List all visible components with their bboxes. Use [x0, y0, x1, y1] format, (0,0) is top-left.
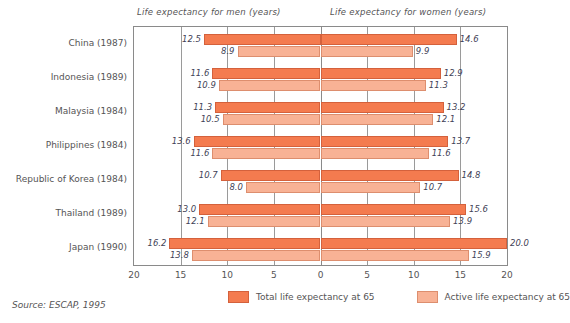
legend-label-active: Active life expectancy at 65	[445, 292, 570, 302]
category-label: Republic of Korea (1984)	[2, 174, 127, 184]
value-label-women-total: 15.6	[469, 204, 488, 215]
value-label-men-active: 11.6	[190, 148, 209, 159]
x-tick-label: 15	[455, 270, 466, 280]
value-label-men-total: 13.0	[177, 204, 196, 215]
bar-women-total	[321, 102, 444, 113]
bar-men-total	[212, 68, 320, 79]
x-tick-label: 20	[128, 270, 139, 280]
legend-swatch-active-icon	[417, 291, 438, 303]
value-label-men-active: 13.8	[170, 250, 189, 261]
value-label-men-total: 11.6	[190, 68, 209, 79]
bar-row-total: 11.612.9	[134, 68, 507, 79]
value-label-women-total: 20.0	[510, 238, 529, 249]
bar-women-total	[321, 34, 457, 45]
x-tick-label: 20	[501, 270, 512, 280]
value-label-women-total: 14.8	[462, 170, 481, 181]
value-label-women-total: 13.2	[447, 102, 466, 113]
x-tick-label: 10	[408, 270, 419, 280]
bar-row-total: 10.714.8	[134, 170, 507, 181]
x-tick-label: 10	[222, 270, 233, 280]
bar-women-active	[321, 46, 413, 57]
bar-men-active	[223, 114, 321, 125]
value-label-men-active: 8.0	[229, 182, 243, 193]
value-label-women-total: 12.9	[444, 68, 463, 79]
value-label-women-active: 11.3	[429, 80, 448, 91]
x-axis-ticks: 201510505101520	[133, 267, 508, 283]
right-axis-title: Life expectancy for women (years)	[330, 7, 486, 17]
bar-men-active	[192, 250, 321, 261]
legend-item-total: Total life expectancy at 65	[228, 291, 375, 303]
value-label-women-active: 15.9	[472, 250, 491, 261]
bar-row-active: 11.611.6	[134, 148, 507, 159]
bar-women-total	[321, 204, 466, 215]
x-tick-label: 0	[318, 270, 324, 280]
source-note: Source: ESCAP, 1995	[12, 300, 106, 310]
legend-item-active: Active life expectancy at 65	[417, 291, 570, 303]
value-label-women-active: 13.9	[453, 216, 472, 227]
bar-women-active	[321, 148, 429, 159]
category-label: Indonesia (1989)	[2, 72, 127, 82]
bar-men-active	[212, 148, 320, 159]
bar-men-total	[169, 238, 320, 249]
bar-women-total	[321, 170, 459, 181]
bar-women-active	[321, 80, 426, 91]
bar-row-total: 16.220.0	[134, 238, 507, 249]
category-label: China (1987)	[2, 38, 127, 48]
bar-women-active	[321, 216, 451, 227]
left-axis-title: Life expectancy for men (years)	[137, 7, 281, 17]
value-label-men-active: 10.9	[197, 80, 216, 91]
bar-men-active	[246, 182, 321, 193]
value-label-women-total: 13.7	[451, 136, 470, 147]
bar-men-active	[238, 46, 321, 57]
bar-men-total	[221, 170, 321, 181]
x-tick-label: 15	[175, 270, 186, 280]
bar-row-total: 12.514.6	[134, 34, 507, 45]
bar-women-active	[321, 250, 469, 261]
legend-label-total: Total life expectancy at 65	[256, 292, 375, 302]
bar-women-total	[321, 68, 441, 79]
category-label-column: China (1987)Indonesia (1989)Malaysia (19…	[0, 26, 127, 266]
x-tick-label: 5	[364, 270, 370, 280]
value-label-men-total: 16.2	[148, 238, 167, 249]
value-label-men-total: 10.7	[199, 170, 218, 181]
bar-women-total	[321, 136, 449, 147]
bar-men-total	[199, 204, 320, 215]
bar-row-total: 13.015.6	[134, 204, 507, 215]
value-label-men-total: 12.5	[182, 34, 201, 45]
value-label-women-active: 11.6	[432, 148, 451, 159]
legend-swatch-total-icon	[228, 291, 249, 303]
bar-row-active: 10.911.3	[134, 80, 507, 91]
value-label-men-active: 12.1	[186, 216, 205, 227]
bar-men-active	[208, 216, 321, 227]
category-label: Philippines (1984)	[2, 140, 127, 150]
value-label-men-total: 13.6	[172, 136, 191, 147]
value-label-women-total: 14.6	[460, 34, 479, 45]
bar-row-total: 11.313.2	[134, 102, 507, 113]
bar-row-total: 13.613.7	[134, 136, 507, 147]
bar-men-active	[219, 80, 321, 91]
x-tick-label: 5	[271, 270, 277, 280]
plot-area: 12.514.68.99.911.612.910.911.311.313.210…	[133, 26, 508, 266]
value-label-men-total: 11.3	[193, 102, 212, 113]
value-label-women-active: 12.1	[436, 114, 455, 125]
category-label: Japan (1990)	[2, 242, 127, 252]
bar-row-active: 8.010.7	[134, 182, 507, 193]
bar-men-total	[215, 102, 320, 113]
category-label: Malaysia (1984)	[2, 106, 127, 116]
value-label-men-active: 10.5	[201, 114, 220, 125]
bar-women-active	[321, 114, 434, 125]
bar-row-active: 8.99.9	[134, 46, 507, 57]
bar-row-active: 12.113.9	[134, 216, 507, 227]
bar-row-active: 10.512.1	[134, 114, 507, 125]
value-label-men-active: 8.9	[221, 46, 235, 57]
bar-women-total	[321, 238, 508, 249]
bar-women-active	[321, 182, 421, 193]
category-label: Thailand (1989)	[2, 208, 127, 218]
bar-men-total	[194, 136, 321, 147]
bar-men-total	[204, 34, 321, 45]
chart-legend: Total life expectancy at 65 Active life …	[228, 289, 570, 305]
bar-row-active: 13.815.9	[134, 250, 507, 261]
value-label-women-active: 10.7	[423, 182, 442, 193]
value-label-women-active: 9.9	[416, 46, 430, 57]
